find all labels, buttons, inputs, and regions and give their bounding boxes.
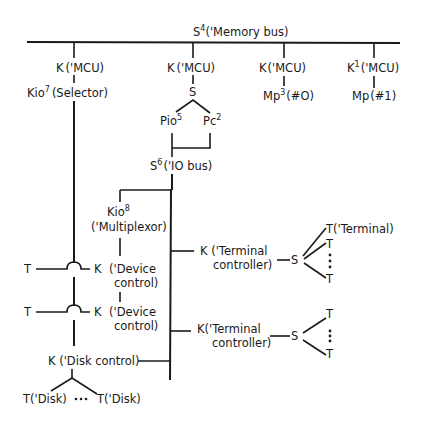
ellipsis-dot — [329, 260, 332, 263]
terminal-controller-label-1: K('Terminal — [197, 322, 261, 336]
memory-bus: S4('Memory bus) — [27, 24, 400, 43]
device-control-1: T K ('Device control) — [23, 262, 158, 302]
terminal-controller-1: K ('Terminal controller) S T('Terminal) … — [171, 222, 394, 286]
mcu-k-label: K('MCU) — [56, 61, 104, 75]
multiplexor-name: Kio8 — [107, 204, 130, 219]
mcu-branch-memory-1: K1('MCU) Mp(#1) — [347, 43, 399, 103]
selector-label: Kio7(Selector) — [27, 85, 108, 100]
mcu-k-label: K1('MCU) — [347, 60, 399, 75]
terminal-label: T('Terminal) — [325, 222, 394, 236]
ellipsis-dot — [80, 398, 83, 401]
terminal-label: T — [325, 237, 334, 251]
disk-right-label: T('Disk) — [96, 392, 141, 406]
mcu-branch-memory-0: K('MCU) Mp3(#O) — [259, 43, 314, 103]
processor-switch: S — [189, 85, 196, 99]
crossover-line — [36, 305, 90, 312]
crossover-line — [36, 262, 90, 269]
device-terminal: T — [23, 262, 32, 276]
terminal-controller-label-1: K ('Terminal — [200, 244, 267, 258]
disk-left-label: T('Disk) — [22, 392, 67, 406]
memory-bus-line — [27, 42, 400, 43]
terminal-label: T — [325, 272, 334, 286]
ellipsis-dot — [329, 335, 332, 338]
device-k: K — [94, 305, 102, 319]
terminal-label: T — [325, 347, 334, 361]
ellipsis-dot — [329, 266, 332, 269]
io-bus-label: S6('IO bus) — [150, 158, 212, 173]
memory-bus-label: S4('Memory bus) — [193, 24, 289, 39]
terminal-switch: S — [291, 253, 298, 267]
multiplexor-label: ('Multiplexor) — [91, 220, 167, 234]
mcu-k-label: K('MCU) — [167, 61, 215, 75]
memory-0-label: Mp3(#O) — [263, 88, 314, 103]
terminal-controller-label-2: controller) — [213, 258, 272, 272]
ellipsis-dot — [329, 330, 332, 333]
device-label-2: control) — [114, 319, 158, 333]
io-bus-line — [170, 189, 171, 380]
device-control-2: T K ('Device control) — [23, 305, 158, 333]
terminal-label: T — [325, 307, 334, 321]
pc-label: Pc2 — [203, 113, 221, 128]
ellipsis-dot — [75, 398, 78, 401]
ellipsis-dot — [329, 340, 332, 343]
computer-structure-diagram: S4('Memory bus) K('MCU) Kio7(Selector) K… — [0, 0, 421, 428]
multiplexor: Kio8 ('Multiplexor) — [91, 204, 167, 256]
device-label-1: ('Device — [109, 262, 156, 276]
pio-label: Pio5 — [160, 113, 182, 128]
memory-1-label: Mp(#1) — [352, 89, 396, 103]
ellipsis-dot — [329, 254, 332, 257]
device-terminal: T — [23, 305, 32, 319]
disk-control-label: K ('Disk control) — [48, 354, 140, 368]
terminal-controller-2: K('Terminal controller) S T T — [171, 307, 334, 361]
mcu-branch-selector: K('MCU) Kio7(Selector) — [27, 42, 108, 346]
terminal-switch: S — [291, 329, 298, 343]
device-k: K — [94, 262, 102, 276]
mcu-k-label: K('MCU) — [259, 61, 306, 75]
mcu-branch-processors: K('MCU) S Pio5 Pc2 S6('IO bus) — [150, 42, 221, 173]
device-label-2: control) — [114, 276, 158, 290]
ellipsis-dot — [85, 398, 88, 401]
terminal-controller-label-2: controller) — [212, 336, 271, 350]
disk-control: K ('Disk control) T('Disk) T('Disk) — [22, 354, 171, 406]
device-label-1: ('Device — [109, 305, 156, 319]
